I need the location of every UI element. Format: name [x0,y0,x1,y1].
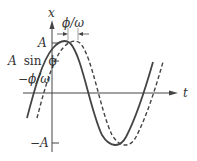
horizontal-axis-label: t [183,86,188,100]
neg-time-shift-label: −ϕ/ω [18,72,50,86]
amplitude-label: A [37,36,47,50]
intercept-amplitude: A [7,54,17,68]
phase-shift-diagram: x t ϕ/ω A A sin ϕ −ϕ/ω −A [0,0,197,161]
intercept-phi: ϕ [48,54,56,68]
neg-amplitude-label: −A [30,136,49,150]
vertical-axis-arrow-icon [50,20,55,29]
horizontal-axis-arrow-icon [169,91,178,96]
shift-arrowhead-right-icon [78,32,83,36]
intercept-label: A sin ϕ [7,51,57,68]
shift-arrowhead-left-icon [63,32,68,36]
shift-label: ϕ/ω [62,16,84,30]
intercept-func: sin [24,54,42,68]
vertical-axis-label: x [48,6,55,20]
